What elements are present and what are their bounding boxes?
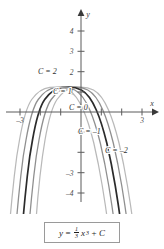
formula-lhs: y bbox=[59, 228, 63, 238]
formula-variable: x bbox=[81, 228, 85, 238]
x-tick-label-3: 3 bbox=[139, 116, 144, 125]
formula-box: y = 1 3 x 3 + C bbox=[44, 222, 120, 243]
x-axis-label: x bbox=[149, 99, 154, 108]
curve-label-c-2: C = 2 bbox=[38, 67, 57, 76]
formula-denominator: 3 bbox=[74, 232, 79, 239]
curve-label-c-minus-1-text: C = –1 bbox=[78, 127, 101, 136]
y-tick-label-4: 4 bbox=[70, 27, 74, 36]
x-tick-label-neg3: –3 bbox=[15, 116, 24, 125]
y-tick-label-3: 3 bbox=[69, 47, 74, 56]
formula-constant: C bbox=[99, 228, 105, 238]
curve-label-c-1: C = 1 bbox=[53, 87, 72, 96]
curve-label-c-0: C = 0 bbox=[69, 103, 88, 112]
y-tick-label-neg3: –3 bbox=[65, 169, 74, 178]
formula-equals: = bbox=[65, 228, 70, 238]
formula-plus: + bbox=[91, 228, 96, 238]
formula-exponent: 3 bbox=[86, 230, 89, 236]
curve-label-c-minus-1: C = –1 bbox=[78, 127, 101, 136]
y-axis-label: y bbox=[85, 10, 90, 19]
curve-label-c-2-text: C = 2 bbox=[38, 67, 57, 76]
curve-label-c-0-text: C = 0 bbox=[69, 103, 88, 112]
y-tick-label-2: 2 bbox=[70, 68, 74, 77]
figure-container: –3 3 4 3 2 1 –3 –4 x y C = 2 C = 1 C = 0… bbox=[0, 0, 164, 249]
formula-fraction: 1 3 bbox=[74, 226, 79, 239]
curve-label-c-1-text: C = 1 bbox=[53, 87, 72, 96]
formula-expression: y = 1 3 x 3 + C bbox=[59, 226, 105, 239]
curve-label-c-minus-2: C = –2 bbox=[105, 146, 128, 155]
coordinate-plot: –3 3 4 3 2 1 –3 –4 x y C = 2 C = 1 C = 0… bbox=[0, 0, 164, 214]
curve-label-c-minus-2-text: C = –2 bbox=[105, 146, 128, 155]
y-tick-label-neg4: –4 bbox=[65, 189, 74, 198]
